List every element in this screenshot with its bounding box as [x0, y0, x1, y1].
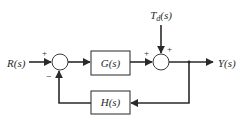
block-diagram: R(s) + − G(s) + + Td(s) Y(s) H(s) — [0, 0, 243, 127]
sum1-plus-sign: + — [42, 48, 47, 58]
feedback-block-label: H(s) — [100, 96, 121, 109]
input-label: R(s) — [6, 57, 26, 70]
summing-junction-1 — [52, 54, 68, 70]
summing-junction-2 — [153, 54, 169, 70]
sum1-minus-sign: − — [46, 71, 52, 82]
feedback-path-left — [59, 71, 91, 103]
sum2-left-plus-sign: + — [144, 48, 149, 58]
disturbance-label: Td(s) — [150, 9, 172, 23]
output-label: Y(s) — [218, 57, 236, 70]
forward-block-label: G(s) — [101, 57, 121, 70]
sum2-top-plus-sign: + — [167, 44, 172, 54]
